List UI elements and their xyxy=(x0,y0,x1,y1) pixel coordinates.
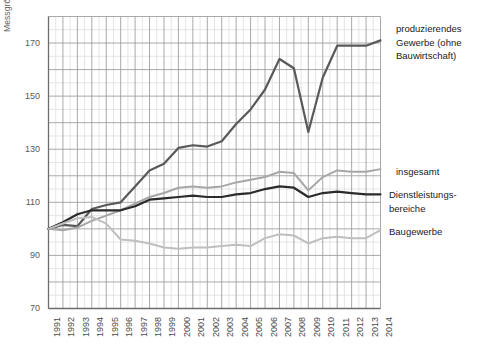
x-tick-label: 2006 xyxy=(269,316,279,336)
x-tick-label: 2001 xyxy=(196,316,206,336)
x-tick-label: 2000 xyxy=(182,316,192,336)
x-tick-label: 1995 xyxy=(110,316,120,336)
x-tick-label: 1991 xyxy=(52,316,62,336)
y-axis-label: Messgrösse [%] xyxy=(2,0,16,32)
x-tick-label: 1997 xyxy=(139,316,149,336)
y-tick-label: 130 xyxy=(12,144,40,154)
x-tick-label: 2007 xyxy=(283,316,293,336)
legend-label-1: insgesamt xyxy=(396,165,439,179)
x-tick-label: 2013 xyxy=(370,316,380,336)
y-tick-label: 150 xyxy=(12,91,40,101)
x-tick-label: 2009 xyxy=(312,316,322,336)
y-tick-label: 110 xyxy=(12,197,40,207)
x-tick-label: 1993 xyxy=(81,316,91,336)
x-tick-label: 2011 xyxy=(341,317,351,336)
chart-figure: Messgrösse [%] 1701501301109070199119921… xyxy=(0,0,479,346)
x-tick-label: 2014 xyxy=(384,316,394,336)
x-tick-label: 1996 xyxy=(124,316,134,336)
x-tick-label: 1998 xyxy=(153,316,163,336)
x-tick-label: 2004 xyxy=(240,316,250,336)
x-tick-label: 1994 xyxy=(95,316,105,336)
x-tick-label: 2010 xyxy=(326,316,336,336)
x-tick-label: 2005 xyxy=(254,316,264,336)
y-tick-label: 70 xyxy=(12,303,40,313)
x-tick-label: 1992 xyxy=(66,316,76,336)
y-tick-label: 90 xyxy=(12,250,40,260)
x-tick-label: 2012 xyxy=(355,316,365,336)
legend-label-2: Dienstleistungs- bereiche xyxy=(389,188,457,215)
x-tick-label: 1999 xyxy=(167,316,177,336)
x-tick-label: 2008 xyxy=(297,316,307,336)
legend-label-3: Baugewerbe xyxy=(389,225,442,239)
legend-label-0: produzierendes Gewerbe (ohne Bauwirtscha… xyxy=(396,22,462,63)
x-tick-label: 2003 xyxy=(225,316,235,336)
y-tick-label: 170 xyxy=(12,38,40,48)
x-tick-label: 2002 xyxy=(211,316,221,336)
